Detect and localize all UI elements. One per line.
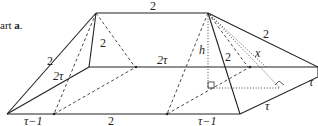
label-bottom-right: τ−1 bbox=[198, 114, 216, 126]
label-top-edge: 2 bbox=[150, 0, 156, 13]
label-height: h bbox=[199, 43, 205, 57]
label-bottom-mid: 2 bbox=[108, 114, 114, 126]
label-left-inner: 2 bbox=[100, 36, 106, 50]
prism-diagram: 2 2 2 2τ 2τ h 2 x 2 τ τ τ−1 2 τ−1 bbox=[0, 0, 318, 126]
label-far-right: τ bbox=[309, 75, 314, 89]
label-right-top-slant: 2 bbox=[263, 27, 269, 41]
right-dash-1 bbox=[167, 13, 208, 114]
label-left-slant-bottom: 2τ bbox=[53, 69, 64, 83]
vertex-dot bbox=[166, 113, 168, 115]
right-angle-marker-1 bbox=[208, 82, 214, 88]
label-back-edge: 2τ bbox=[157, 53, 168, 67]
left-base-edge bbox=[7, 67, 89, 114]
slant-x-line bbox=[208, 13, 280, 88]
vertex-dot bbox=[53, 113, 55, 115]
left-dash-base bbox=[54, 67, 136, 114]
left-back-slant bbox=[89, 13, 96, 67]
label-right-inner: 2 bbox=[225, 50, 231, 64]
label-bottom-left: τ−1 bbox=[24, 114, 42, 126]
vertex-dot bbox=[249, 66, 251, 68]
right-front-slant bbox=[208, 13, 240, 114]
dashed-lines bbox=[54, 13, 250, 114]
vertex-dot bbox=[135, 66, 137, 68]
right-base-edge bbox=[240, 77, 318, 114]
label-right-slant: x bbox=[254, 46, 261, 60]
label-left-slant-top: 2 bbox=[47, 54, 53, 68]
label-bottom-right-tau: τ bbox=[265, 99, 270, 113]
